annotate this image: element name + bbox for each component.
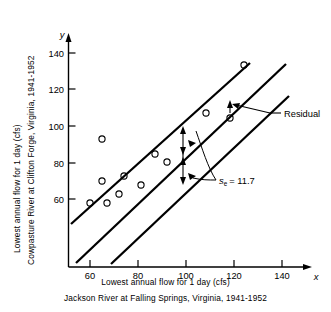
se-side-arrow-upper: [188, 140, 196, 147]
se-value: = 11.7: [229, 176, 254, 186]
axes-group: [66, 33, 313, 270]
data-point: [87, 200, 93, 206]
se-side-arrow-lower: [188, 173, 196, 180]
residual-leader: [236, 105, 270, 113]
data-point: [99, 178, 105, 184]
y-ticklabel-100: 100: [48, 122, 64, 132]
y-ticklabel-60: 60: [54, 195, 64, 205]
y-ticklabel-140: 140: [48, 49, 64, 59]
data-point: [164, 159, 170, 165]
upper-band-line: [71, 63, 250, 224]
y-ticklabel-120: 120: [48, 85, 64, 95]
se-arrowhead-top: [180, 126, 186, 134]
standard-error-annotation: se= 11.7: [180, 126, 255, 187]
data-point: [152, 151, 158, 157]
data-point: [203, 110, 209, 116]
data-point: [104, 200, 110, 206]
lower-band-line: [111, 96, 289, 264]
x-axis-arrowhead: [303, 264, 312, 270]
residual-label: Residual: [284, 109, 320, 119]
se-subscript: e: [224, 180, 228, 187]
se-arrowhead-inner-upper: [180, 147, 186, 155]
y-axis-arrowhead: [66, 33, 72, 42]
y-ticklabel-80: 80: [54, 159, 64, 169]
data-point: [99, 136, 105, 142]
se-leader-lower: [193, 178, 216, 180]
se-arrowhead-bottom: [180, 177, 186, 185]
y-axis-symbol: y: [59, 29, 66, 40]
scatter-plot-figure: 140 120 100 80 60 60 80 100 120 140 y x: [0, 0, 331, 312]
band-lines-group: [71, 63, 289, 264]
x-axis-caption-line2: Jackson River at Falling Springs, Virgin…: [0, 293, 331, 303]
y-ticks-group: 140 120 100 80 60: [48, 49, 75, 205]
y-axis-caption-line1: Lowest annual flow for 1 day (cfs): [12, 124, 22, 253]
data-point: [138, 182, 144, 188]
y-axis-caption-line2: Cowpasture River at Clifton Forge, Virgi…: [26, 56, 36, 265]
data-point: [116, 191, 122, 197]
se-label: se= 11.7: [219, 175, 255, 187]
plot-canvas: 140 120 100 80 60 60 80 100 120 140 y x: [0, 0, 331, 312]
x-axis-caption-line1: Lowest annual flow for 1 day (cfs): [0, 277, 331, 287]
